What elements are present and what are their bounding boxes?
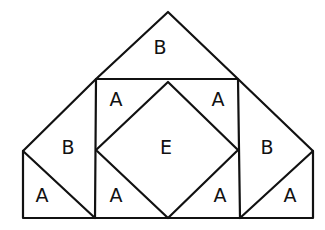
label-top-triangle: B — [153, 36, 166, 58]
label-left-lower-triangle: A — [36, 184, 49, 206]
label-right-lower-triangle: A — [284, 184, 297, 206]
outer-outline — [23, 12, 313, 218]
left-divider — [23, 151, 95, 218]
label-square-bottom-left: A — [110, 184, 123, 206]
label-square-top-left: A — [110, 88, 123, 110]
label-square-top-right: A — [212, 88, 225, 110]
label-right-upper-triangle: B — [260, 136, 273, 158]
label-square-bottom-right: A — [214, 184, 227, 206]
label-left-upper-triangle: B — [61, 136, 74, 158]
label-center-diamond: E — [160, 136, 172, 158]
right-divider — [240, 151, 313, 218]
quilt-block-diagram: B A A E B B A A A A — [0, 0, 325, 230]
